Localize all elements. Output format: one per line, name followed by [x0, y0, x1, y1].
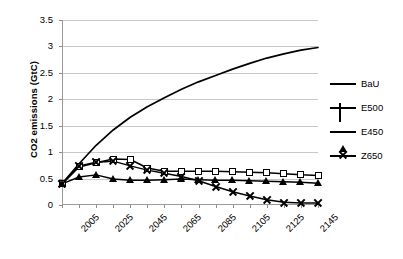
chart-legend: BaU E500 E450 Z650: [330, 72, 402, 168]
y-tick-label: 3: [15, 41, 53, 51]
data-point-z650: [229, 188, 237, 196]
x-tick-mark: [267, 205, 268, 208]
data-point-e500: [212, 168, 219, 175]
data-point-z650: [92, 158, 100, 166]
x-tick-mark: [164, 205, 165, 208]
legend-label: BaU: [361, 79, 379, 89]
x-tick-mark: [250, 205, 251, 208]
legend-label: Z650: [361, 151, 383, 161]
legend-label: E500: [361, 103, 383, 113]
legend-label: E450: [361, 127, 383, 137]
x-tick-mark: [113, 205, 114, 208]
plot-area: [62, 20, 318, 205]
data-point-z650: [160, 169, 168, 177]
x-tick-mark: [96, 205, 97, 208]
data-point-z650: [109, 157, 117, 165]
legend-symbol-filled-triangle-icon: [330, 125, 356, 139]
data-point-z650: [280, 198, 288, 206]
data-point-e450: [314, 179, 322, 186]
data-point-z650: [126, 162, 134, 170]
data-point-z650: [212, 183, 220, 191]
data-point-z650: [58, 180, 66, 188]
data-point-e500: [315, 172, 322, 179]
y-tick-label: 2: [15, 94, 53, 104]
data-point-z650: [314, 199, 322, 207]
y-tick-label: 1.5: [15, 121, 53, 131]
y-tick-label: 2.5: [15, 68, 53, 78]
x-tick-mark: [130, 205, 131, 208]
x-tick-mark: [233, 205, 234, 208]
data-point-e450: [75, 173, 83, 180]
chart-container: CO2 emissions (GtC) 00.511.522.533.5 200…: [0, 0, 403, 259]
data-point-e450: [296, 178, 304, 185]
data-point-e500: [263, 169, 270, 176]
y-tick-label: 0: [15, 200, 53, 210]
data-point-z650: [297, 199, 305, 207]
legend-symbol-open-square-icon: [330, 101, 356, 115]
data-point-e450: [279, 178, 287, 185]
data-point-e450: [92, 171, 100, 178]
x-tick-mark: [147, 205, 148, 208]
y-tick-label: 1: [15, 147, 53, 157]
data-point-z650: [263, 196, 271, 204]
data-point-e500: [280, 170, 287, 177]
data-point-e500: [229, 168, 236, 175]
data-point-z650: [143, 166, 151, 174]
legend-symbol-line-icon: [330, 77, 356, 91]
data-point-z650: [195, 177, 203, 185]
data-point-z650: [177, 172, 185, 180]
data-point-e450: [109, 175, 117, 182]
data-point-e450: [126, 176, 134, 183]
data-point-z650: [75, 162, 83, 170]
data-point-e450: [228, 176, 236, 183]
data-point-e450: [245, 177, 253, 184]
data-point-e450: [143, 176, 151, 183]
x-tick-mark: [199, 205, 200, 208]
legend-symbol-x-icon: [330, 149, 356, 163]
x-tick-mark: [79, 205, 80, 208]
data-point-e500: [195, 168, 202, 175]
data-point-z650: [246, 192, 254, 200]
legend-item-e500: E500: [330, 96, 402, 120]
legend-item-e450: E450: [330, 120, 402, 144]
y-tick-label: 3.5: [15, 15, 53, 25]
data-point-e450: [262, 177, 270, 184]
y-tick-label: 0.5: [15, 174, 53, 184]
series-line-bau: [62, 47, 318, 183]
data-point-e500: [246, 169, 253, 176]
x-tick-mark: [216, 205, 217, 208]
x-tick-mark: [181, 205, 182, 208]
x-tick-mark: [62, 205, 63, 208]
legend-item-bau: BaU: [330, 72, 402, 96]
